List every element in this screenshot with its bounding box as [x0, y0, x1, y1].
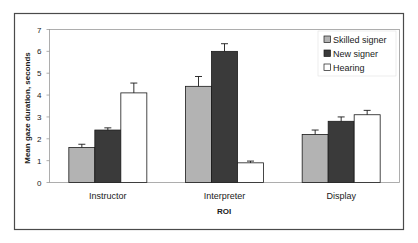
legend-label: Skilled signer [333, 35, 387, 45]
bar-chart: 01234567 InstructorInterpreterDisplay Me… [0, 0, 418, 243]
legend-swatch [324, 64, 331, 71]
y-tick-label: 0 [37, 179, 42, 188]
legend: Skilled signerNew signerHearing [318, 31, 396, 76]
y-tick-label: 7 [37, 26, 42, 35]
y-tick-label: 6 [37, 47, 42, 56]
x-category-label: Interpreter [204, 191, 246, 201]
y-axis-title: Mean gaze duration, seconds [23, 52, 32, 164]
x-category-label: Instructor [89, 191, 127, 201]
legend-swatch [324, 36, 331, 43]
y-tick-label: 3 [37, 113, 42, 122]
bar-hearing-interpreter [238, 163, 264, 183]
y-tick-label: 2 [37, 135, 42, 144]
y-tick-label: 5 [37, 69, 42, 78]
bar-new-signer-instructor [95, 130, 121, 182]
bar-hearing-instructor [121, 93, 147, 183]
bar-skilled-signer-display [302, 134, 328, 182]
x-axis-title: ROI [217, 207, 231, 216]
legend-label: Hearing [333, 63, 365, 73]
y-tick-label: 4 [37, 91, 42, 100]
y-tick-label: 1 [37, 157, 42, 166]
x-category-label: Display [326, 191, 356, 201]
bar-new-signer-display [328, 121, 354, 182]
legend-swatch [324, 50, 331, 57]
bar-new-signer-interpreter [212, 51, 238, 182]
bar-skilled-signer-interpreter [186, 86, 212, 182]
bar-skilled-signer-instructor [69, 148, 95, 183]
legend-label: New signer [333, 49, 378, 59]
bar-hearing-display [354, 115, 380, 183]
